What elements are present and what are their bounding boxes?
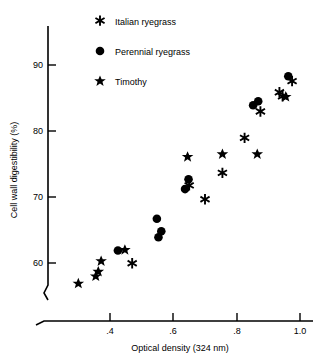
legend-item-timothy: Timothy — [94, 75, 147, 87]
x-axis: .4 .6 .8 1.0 Optical density (324 nm) — [36, 313, 313, 353]
data-point — [184, 175, 193, 184]
data-point — [181, 185, 190, 194]
data-point — [217, 168, 227, 178]
x-tick-marks — [110, 313, 300, 321]
data-point — [182, 151, 194, 162]
data-points-layer — [73, 72, 298, 288]
y-tick-marks — [48, 65, 56, 263]
data-point — [157, 227, 166, 236]
star-icon — [94, 75, 106, 86]
x-tick-label-1-0: 1.0 — [294, 326, 307, 336]
data-point — [284, 72, 293, 81]
legend-label-perennial-ryegrass: Perennial ryegrass — [115, 47, 191, 57]
y-tick-label-90: 90 — [33, 60, 43, 70]
data-point — [114, 246, 123, 255]
legend-label-italian-ryegrass: Italian ryegrass — [115, 17, 177, 27]
series-perennial-ryegrass — [114, 72, 293, 255]
y-tick-label-60: 60 — [33, 258, 43, 268]
legend-item-perennial-ryegrass: Perennial ryegrass — [96, 47, 191, 57]
data-point — [127, 258, 137, 268]
x-tick-label-0-8: .8 — [233, 326, 241, 336]
chart-canvas: 90 80 70 60 Cell wall digestibility (%) … — [0, 0, 325, 364]
data-point — [254, 97, 263, 106]
legend: Italian ryegrass Perennial ryegrass Timo… — [94, 15, 190, 87]
y-axis: 90 80 70 60 Cell wall digestibility (%) — [9, 26, 56, 300]
circle-icon — [96, 47, 105, 56]
x-tick-label-0-4: .4 — [106, 326, 114, 336]
legend-item-italian-ryegrass: Italian ryegrass — [95, 15, 177, 27]
y-tick-label-70: 70 — [33, 192, 43, 202]
data-point — [73, 278, 85, 289]
data-point — [251, 149, 263, 160]
asterisk-icon — [95, 15, 105, 25]
x-axis-label: Optical density (324 nm) — [131, 343, 229, 353]
legend-label-timothy: Timothy — [115, 77, 147, 87]
scatter-plot-figure: 90 80 70 60 Cell wall digestibility (%) … — [0, 0, 325, 364]
x-tick-label-0-6: .6 — [169, 326, 177, 336]
y-tick-label-80: 80 — [33, 126, 43, 136]
data-point — [255, 106, 265, 116]
series-italian-ryegrass — [127, 76, 297, 269]
data-point — [95, 255, 107, 266]
y-axis-label: Cell wall digestibility (%) — [9, 122, 19, 219]
data-point — [153, 214, 162, 223]
data-point — [240, 133, 250, 143]
data-point — [200, 194, 210, 204]
data-point — [217, 149, 229, 160]
